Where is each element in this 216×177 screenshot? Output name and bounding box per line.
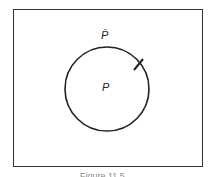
complement-label: P̄ — [101, 29, 108, 41]
set-label: P — [102, 81, 109, 93]
figure-caption: Figure 11.5 — [80, 171, 125, 177]
